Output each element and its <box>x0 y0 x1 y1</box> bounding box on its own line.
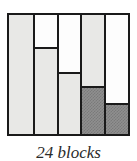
bar-column-3 <box>57 15 81 134</box>
bar-segment-dark <box>106 103 128 134</box>
figure-container: 24 blocks <box>0 0 137 161</box>
figure-caption: 24 blocks <box>0 144 137 161</box>
chart-frame <box>7 13 130 136</box>
bar-column-4 <box>80 15 104 134</box>
bar-column-2 <box>33 15 57 134</box>
bar-segment-light <box>35 47 57 134</box>
bar-segment-dark <box>82 86 104 134</box>
bar-segment-light <box>59 72 81 134</box>
bar-segment-light <box>82 15 104 86</box>
bar-segment-white <box>35 15 57 47</box>
bar-column-1 <box>9 15 33 134</box>
plot-area <box>9 15 128 134</box>
bar-segment-white <box>106 15 128 103</box>
bar-column-5 <box>104 15 128 134</box>
bar-segment-light <box>9 15 33 134</box>
bar-segment-white <box>59 15 81 72</box>
